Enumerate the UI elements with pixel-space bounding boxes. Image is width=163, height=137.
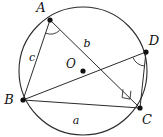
segment-bc — [23, 100, 140, 108]
label-vertex-c: C — [142, 112, 152, 127]
vertex-dot-b — [20, 97, 25, 102]
right-angle-at-c-inner — [130, 91, 131, 99]
vertex-dot-d — [143, 49, 148, 54]
label-vertex-b: B — [3, 92, 14, 107]
label-side-a: a — [73, 114, 80, 127]
geometry-diagram: A B C D O a b c — [0, 0, 163, 137]
diagram-canvas: A B C D O a b c — [0, 0, 163, 137]
label-side-b: b — [83, 37, 90, 50]
segment-ac-diameter — [50, 20, 140, 108]
center-dot-o — [80, 68, 85, 73]
vertex-dot-c — [137, 105, 142, 110]
vertex-dot-a — [47, 17, 52, 22]
segment-dc — [140, 52, 146, 108]
label-vertex-a: A — [35, 0, 45, 15]
label-center-o: O — [66, 57, 76, 71]
segment-bd-diameter — [23, 52, 146, 100]
angle-arc-at-d — [133, 57, 145, 66]
label-vertex-d: D — [148, 33, 160, 48]
segment-ab — [23, 20, 50, 100]
label-side-c: c — [29, 51, 35, 64]
angle-arc-at-a — [46, 31, 60, 35]
